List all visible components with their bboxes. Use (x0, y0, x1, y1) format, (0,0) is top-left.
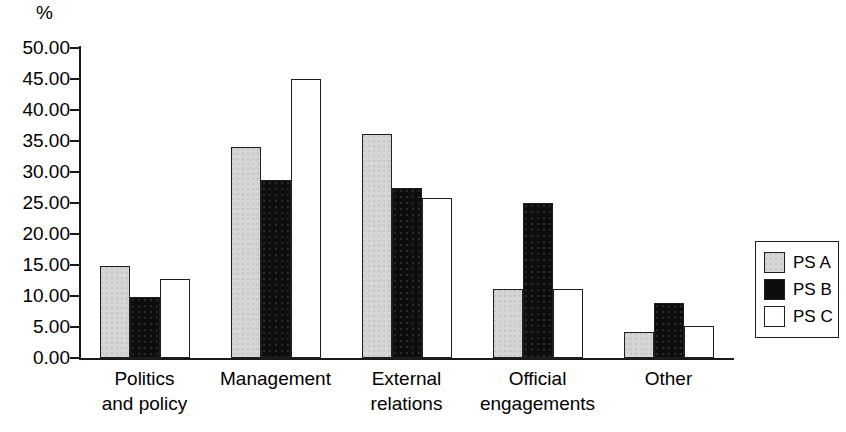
y-axis-tick-label: 0.00 (4, 348, 70, 367)
y-axis-tick (70, 78, 79, 80)
bar (231, 147, 261, 358)
y-axis-tick (70, 357, 79, 359)
legend: PS APS BPS C (755, 241, 839, 338)
legend-item: PS A (764, 250, 831, 275)
legend-swatch (764, 306, 785, 327)
y-axis-tick-label-wrap: 35.00 (0, 131, 70, 150)
y-axis-tick-label: 35.00 (4, 131, 70, 150)
category-label-line1: Politics (69, 366, 220, 391)
x-axis-category-label: Management (200, 366, 351, 391)
y-axis-tick-label-wrap: 40.00 (0, 100, 70, 119)
category-label-line1: External (331, 366, 482, 391)
bar (100, 266, 130, 358)
y-axis-tick-label: 20.00 (4, 224, 70, 243)
bar (523, 203, 553, 358)
bar (362, 134, 392, 358)
y-axis-tick-label-wrap: 45.00 (0, 69, 70, 88)
y-axis-tick-label-wrap: 30.00 (0, 162, 70, 181)
bar (684, 326, 714, 358)
y-axis-tick (70, 264, 79, 266)
y-axis-tick-label-wrap: 50.00 (0, 38, 70, 57)
legend-item: PS B (764, 277, 832, 302)
bar-group (362, 48, 452, 358)
bar (493, 289, 523, 358)
category-label-line2: and policy (69, 391, 220, 416)
y-axis-tick-label-wrap: 20.00 (0, 224, 70, 243)
y-axis-tick-label: 50.00 (4, 38, 70, 57)
category-label-line2: engagements (462, 391, 613, 416)
bar (422, 198, 452, 358)
bar-group (100, 48, 190, 358)
y-axis-tick (70, 140, 79, 142)
y-axis-tick-label: 30.00 (4, 162, 70, 181)
legend-swatch (764, 252, 785, 273)
category-label-line2: relations (331, 391, 482, 416)
y-axis-tick (70, 295, 79, 297)
legend-swatch (764, 279, 785, 300)
y-axis-tick-label: 25.00 (4, 193, 70, 212)
y-axis-tick (70, 233, 79, 235)
category-label-line1: Official (462, 366, 613, 391)
y-axis-tick (70, 202, 79, 204)
category-label-line1: Other (593, 366, 744, 391)
x-axis-category-label: Officialengagements (462, 366, 613, 416)
bar-group (493, 48, 583, 358)
bar-group (624, 48, 714, 358)
y-axis-tick-label: 10.00 (4, 286, 70, 305)
y-axis-tick-label: 40.00 (4, 100, 70, 119)
x-axis-line (79, 358, 734, 360)
bar-group (231, 48, 321, 358)
category-label-line1: Management (200, 366, 351, 391)
bar (261, 180, 291, 358)
legend-label: PS C (793, 308, 833, 325)
legend-label: PS A (793, 254, 831, 271)
x-axis-category-label: Other (593, 366, 744, 391)
y-axis-tick (70, 326, 79, 328)
y-axis-tick-label-wrap: 15.00 (0, 255, 70, 274)
y-axis-tick-label-wrap: 0.00 (0, 348, 70, 367)
y-axis-unit-label: % (36, 2, 53, 24)
y-axis-tick (70, 47, 79, 49)
bar (392, 188, 422, 358)
y-axis-tick (70, 171, 79, 173)
y-axis-tick-label: 15.00 (4, 255, 70, 274)
bar (654, 303, 684, 358)
y-axis-tick (70, 109, 79, 111)
y-axis-tick-label-wrap: 25.00 (0, 193, 70, 212)
x-axis-category-label: Politicsand policy (69, 366, 220, 416)
bar (624, 332, 654, 358)
y-axis-tick-label: 45.00 (4, 69, 70, 88)
y-axis-tick-label: 5.00 (4, 317, 70, 336)
bar (291, 79, 321, 358)
bar (130, 297, 160, 358)
legend-item: PS C (764, 304, 833, 329)
plot-area (79, 48, 734, 358)
bar-chart: % 50.0045.0040.0035.0030.0025.0020.0015.… (0, 0, 846, 432)
y-axis-tick-label-wrap: 10.00 (0, 286, 70, 305)
legend-label: PS B (793, 281, 832, 298)
bar (160, 279, 190, 358)
y-axis-tick-label-wrap: 5.00 (0, 317, 70, 336)
bar (553, 289, 583, 358)
x-axis-category-label: Externalrelations (331, 366, 482, 416)
